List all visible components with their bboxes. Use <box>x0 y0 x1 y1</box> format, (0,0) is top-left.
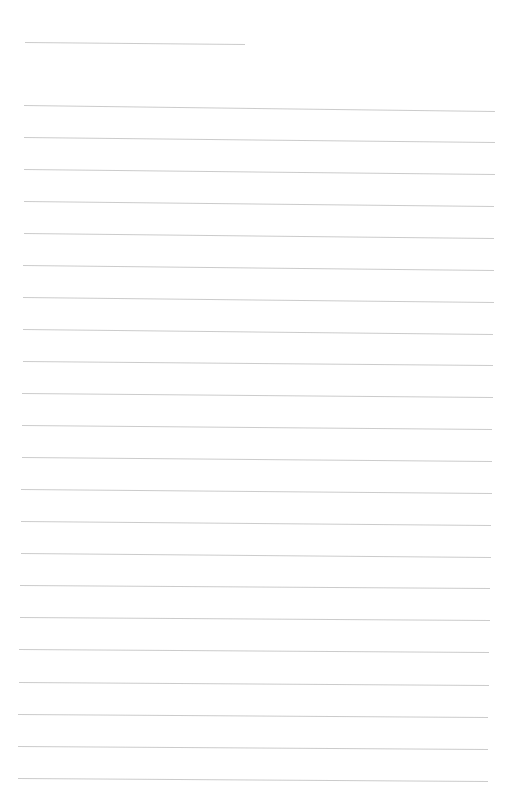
ruled-line <box>22 425 492 430</box>
ruled-line <box>21 521 491 526</box>
ruled-line <box>20 617 490 621</box>
ruled-line <box>23 297 494 303</box>
ruled-line <box>22 457 492 462</box>
ruled-line <box>18 778 488 782</box>
ruled-line <box>24 233 494 239</box>
ruled-line <box>22 393 493 398</box>
ruled-line <box>19 682 489 686</box>
header-rule-line <box>25 42 245 45</box>
ruled-line <box>24 169 495 175</box>
ruled-line <box>18 746 488 750</box>
ruled-line <box>20 585 490 589</box>
ruled-line <box>23 329 493 335</box>
ruled-line <box>23 361 493 366</box>
ruled-line <box>18 714 488 718</box>
ruled-line <box>19 649 489 653</box>
ruled-line <box>21 489 492 494</box>
ruled-line <box>23 265 494 271</box>
ruled-line <box>24 137 495 143</box>
ruled-line <box>24 201 494 207</box>
ruled-line <box>21 553 491 558</box>
ruled-line <box>24 105 495 112</box>
